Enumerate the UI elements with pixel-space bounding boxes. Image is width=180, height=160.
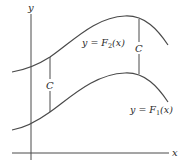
curve-f2-label: y = F2(x) [81, 37, 125, 50]
curve-f1 [12, 73, 168, 130]
x-axis-label: x [172, 147, 178, 158]
gap-label-right: C [135, 43, 143, 54]
antiderivative-diagram: y x C C y = F2(x) y = F1(x) [0, 0, 180, 160]
gap-label-left: C [46, 80, 54, 91]
curve-f1-label: y = F1(x) [129, 104, 173, 117]
y-axis-label: y [27, 2, 34, 13]
